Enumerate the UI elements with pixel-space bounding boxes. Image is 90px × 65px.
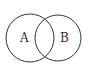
set-b-circle	[35, 15, 81, 61]
set-a-circle	[6, 14, 54, 62]
venn-diagram: A B	[0, 0, 90, 65]
set-a-label: A	[19, 31, 29, 45]
set-b-label: B	[60, 31, 69, 45]
